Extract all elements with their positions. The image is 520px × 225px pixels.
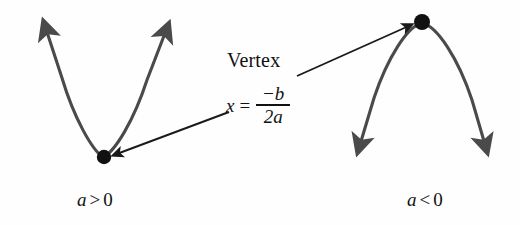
right-parabola-group [359,14,486,148]
formula-fraction: −b 2a [256,84,290,126]
left-parabola-left-arm [45,26,103,157]
vertex-formula: x = −b 2a [226,84,290,126]
formula-variable-x: x [226,96,234,115]
formula-numerator: −b [259,84,287,104]
right-condition-value: 0 [433,189,443,210]
left-condition-value: 0 [103,189,113,210]
right-parabola-right-arm [422,23,486,148]
formula-denominator: 2a [261,106,286,126]
right-parabola-left-arm [359,24,420,148]
left-parabola-right-arm [103,28,167,157]
left-condition-variable: a [77,189,87,210]
left-condition-label: a>0 [77,190,113,209]
right-condition-operator: < [417,189,434,210]
right-condition-variable: a [407,189,417,210]
parabola-vertex-figure: Vertex x = −b 2a a>0 a<0 [0,0,520,225]
vertex-text-label: Vertex [227,50,280,70]
left-condition-operator: > [87,189,104,210]
right-condition-label: a<0 [407,190,443,209]
right-vertex-dot [414,14,430,30]
formula-equals-sign: = [238,96,251,115]
left-parabola-group [45,26,167,164]
left-vertex-dot [97,150,111,164]
